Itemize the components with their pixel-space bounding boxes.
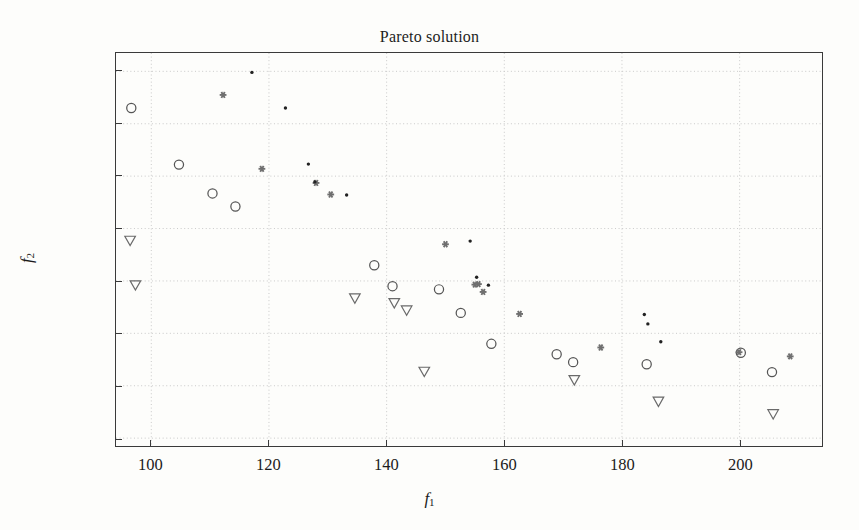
series-triangle-series	[125, 236, 779, 419]
x-tick-label: 180	[610, 455, 635, 475]
data-point	[767, 368, 776, 377]
data-point	[174, 160, 183, 169]
data-point	[456, 308, 465, 317]
data-point	[401, 306, 412, 315]
data-point	[250, 71, 253, 74]
y-axis-title: f2	[17, 253, 37, 263]
data-point	[327, 192, 334, 198]
series-asterisk-series	[220, 92, 794, 359]
data-point	[313, 180, 316, 183]
data-point	[516, 311, 523, 317]
y-tick-mark	[115, 228, 122, 229]
data-point	[127, 103, 136, 112]
x-tick-label: 100	[138, 455, 163, 475]
data-point	[487, 283, 490, 286]
chart-title: Pareto solution	[0, 28, 859, 46]
data-point	[307, 162, 310, 165]
data-point	[659, 340, 662, 343]
figure-canvas: Pareto solution 30405060708090100 100120…	[0, 0, 859, 530]
x-tick-mark	[504, 440, 505, 447]
x-axis-title: f1	[0, 489, 859, 509]
data-point	[646, 322, 649, 325]
data-point	[130, 281, 141, 290]
data-point	[643, 313, 646, 316]
data-point	[487, 339, 496, 348]
y-tick-mark	[115, 439, 122, 440]
plot-area	[115, 52, 823, 447]
data-point	[552, 350, 561, 359]
data-point	[389, 299, 400, 308]
y-tick-mark	[115, 386, 122, 387]
x-tick-mark	[268, 440, 269, 447]
data-point	[569, 376, 580, 385]
x-tick-label: 140	[374, 455, 399, 475]
x-tick-mark	[740, 440, 741, 447]
y-tick-mark	[115, 70, 122, 71]
data-point	[475, 276, 478, 279]
data-point	[284, 106, 287, 109]
y-tick-mark	[115, 333, 122, 334]
x-tick-mark	[386, 440, 387, 447]
data-point	[653, 397, 664, 406]
y-tick-mark	[115, 123, 122, 124]
data-point	[597, 345, 604, 351]
data-markers	[116, 53, 822, 446]
data-point	[768, 410, 779, 419]
data-point	[220, 92, 227, 98]
data-point	[480, 289, 487, 295]
y-tick-mark	[115, 175, 122, 176]
data-point	[442, 241, 449, 247]
series-circle-series	[127, 103, 777, 376]
data-point	[231, 202, 240, 211]
data-point	[434, 285, 443, 294]
data-point	[642, 360, 651, 369]
data-point	[208, 189, 217, 198]
x-tick-mark	[150, 440, 151, 447]
data-point	[388, 282, 397, 291]
x-tick-label: 120	[256, 455, 281, 475]
data-point	[125, 236, 136, 245]
data-point	[787, 353, 794, 359]
data-point	[569, 358, 578, 367]
data-point	[350, 294, 361, 303]
x-tick-label: 200	[728, 455, 753, 475]
x-tick-label: 160	[492, 455, 517, 475]
series-dot-series	[250, 71, 662, 344]
data-point	[370, 261, 379, 270]
data-point	[259, 166, 266, 172]
data-point	[345, 193, 348, 196]
y-tick-mark	[115, 281, 122, 282]
data-point	[419, 367, 430, 376]
x-tick-mark	[622, 440, 623, 447]
data-point	[468, 239, 471, 242]
